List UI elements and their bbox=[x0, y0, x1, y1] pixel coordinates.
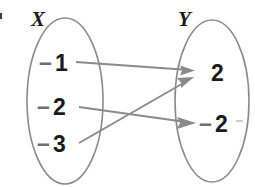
mapping-diagram: X Y – 1 – 2 – 3 2 – 2 bbox=[0, 0, 255, 187]
mapping-arrow-neg2-to-neg2-head bbox=[177, 117, 196, 129]
domain-set-label: X bbox=[30, 7, 46, 31]
range-element-neg2: – 2 bbox=[199, 110, 228, 137]
domain-element-neg3: – 3 bbox=[37, 130, 66, 157]
domain-element-neg1-value: 1 bbox=[55, 50, 68, 76]
mapping-arrow-neg3-to-2-line bbox=[79, 81, 187, 143]
range-element-neg2-value: 2 bbox=[215, 111, 228, 137]
mapping-arrow-neg1-to-2-line bbox=[76, 62, 189, 70]
domain-element-neg3-minus: – bbox=[37, 130, 50, 156]
domain-element-neg1: – 1 bbox=[39, 49, 68, 76]
range-element-pos2-value: 2 bbox=[211, 60, 224, 86]
range-set-label: Y bbox=[178, 7, 193, 31]
range-element-neg2-minus: – bbox=[199, 110, 212, 136]
domain-element-neg2-value: 2 bbox=[53, 94, 66, 120]
mapping-arrow-neg2-to-neg2-line bbox=[79, 107, 186, 122]
domain-element-neg2: – 2 bbox=[37, 93, 66, 120]
range-element-pos2: 2 bbox=[211, 60, 224, 86]
domain-element-neg3-value: 3 bbox=[53, 131, 66, 157]
range-set-ellipse bbox=[175, 20, 249, 182]
cropped-edge-mark bbox=[0, 13, 2, 19]
mapping-diagram-canvas: X Y – 1 – 2 – 3 2 – 2 bbox=[0, 0, 255, 187]
mapping-arrow-neg1-to-2-head bbox=[180, 66, 195, 76]
domain-element-neg2-minus: – bbox=[37, 93, 50, 119]
domain-element-neg1-minus: – bbox=[39, 49, 52, 75]
